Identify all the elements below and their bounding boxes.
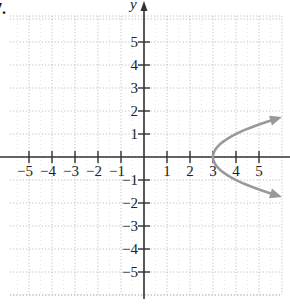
x-tick-label: −5 <box>17 163 33 179</box>
x-tick-labels: −5−4−3−2−112345 <box>17 163 263 179</box>
y-tick-label: 5 <box>131 34 139 50</box>
x-tick-label: −3 <box>63 163 79 179</box>
y-tick-label: −2 <box>122 195 138 211</box>
x-tick-label: 1 <box>163 163 171 179</box>
grid-lines <box>10 16 282 295</box>
axes <box>0 1 290 299</box>
y-tick-label: −1 <box>122 172 138 188</box>
y-tick-label: 4 <box>131 57 139 73</box>
x-tick-label: −4 <box>40 163 56 179</box>
x-tick-label: 4 <box>232 163 240 179</box>
x-tick-label: −2 <box>86 163 102 179</box>
problem-label: 7. <box>0 0 6 17</box>
y-tick-label: −4 <box>122 241 138 257</box>
x-tick-label: 2 <box>186 163 194 179</box>
x-tick-label: 5 <box>255 163 263 179</box>
y-tick-label: −3 <box>122 218 138 234</box>
coordinate-plane: 7. −5−4−3−2−112345 −5−4−3−2−112345 y <box>0 0 290 304</box>
y-tick-label: 3 <box>131 80 139 96</box>
y-tick-label: −5 <box>122 264 138 280</box>
y-tick-label: 2 <box>131 103 139 119</box>
y-tick-label: 1 <box>131 126 139 142</box>
y-axis-label: y <box>128 0 137 12</box>
